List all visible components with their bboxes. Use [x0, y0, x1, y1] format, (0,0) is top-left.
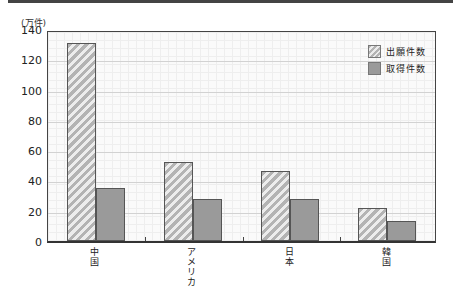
- bar-granted: [290, 199, 319, 241]
- x-category-label: 韓国: [379, 247, 393, 267]
- legend-swatch-solid-icon: [368, 62, 381, 75]
- y-tick-label: 140: [0, 24, 42, 37]
- y-tick-label: 80: [0, 115, 42, 128]
- y-tick-label: 20: [0, 206, 42, 219]
- x-tick-mark: [145, 237, 146, 241]
- y-tick-label: 0: [0, 236, 42, 249]
- gridline: [48, 122, 435, 123]
- legend-swatch-hatched-icon: [368, 45, 381, 58]
- top-rule: [8, 0, 453, 3]
- bar-filed: [358, 208, 387, 241]
- y-tick-label: 40: [0, 175, 42, 188]
- x-category-label: 中国: [88, 247, 102, 267]
- y-tick-label: 100: [0, 85, 42, 98]
- bar-granted: [387, 221, 416, 241]
- y-tick-label: 60: [0, 145, 42, 158]
- gridline: [48, 92, 435, 93]
- gridline: [48, 152, 435, 153]
- bar-filed: [164, 162, 193, 241]
- x-tick-mark: [340, 237, 341, 241]
- x-tick-mark: [243, 237, 244, 241]
- bar-granted: [193, 199, 222, 241]
- legend-item-granted: 取得件数: [368, 60, 426, 77]
- gridline: [48, 182, 435, 183]
- legend: 出願件数 取得件数: [368, 43, 426, 77]
- legend-item-filed: 出願件数: [368, 43, 426, 60]
- bar-granted: [96, 188, 125, 241]
- x-category-label: アメリカ: [185, 247, 199, 287]
- legend-label: 取得件数: [386, 62, 426, 75]
- legend-label: 出願件数: [386, 45, 426, 58]
- bar-filed: [67, 43, 96, 241]
- y-tick-label: 120: [0, 54, 42, 67]
- x-category-label: 日本: [282, 247, 296, 267]
- bar-filed: [261, 171, 290, 241]
